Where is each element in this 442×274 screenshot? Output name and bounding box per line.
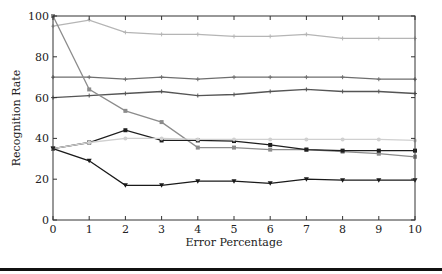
plot-frame	[53, 16, 415, 220]
data-point-marker	[160, 89, 164, 93]
series-layer	[51, 14, 418, 188]
y-tick-label: 20	[35, 173, 49, 186]
data-point-marker	[304, 32, 308, 36]
data-point-marker	[377, 89, 381, 93]
data-point-marker	[87, 75, 91, 79]
data-point-marker	[87, 87, 91, 91]
x-tick-label: 4	[194, 223, 201, 236]
data-point-marker	[160, 32, 164, 36]
x-tick-label: 3	[158, 223, 165, 236]
data-point-marker	[123, 128, 127, 132]
data-point-marker	[304, 75, 308, 79]
data-point-marker	[232, 34, 236, 38]
data-point-marker	[196, 146, 200, 150]
axis-ticks: 012345678910020406080100	[28, 10, 422, 236]
data-point-marker	[232, 146, 236, 150]
data-point-marker	[196, 32, 200, 36]
x-tick-label: 10	[408, 223, 422, 236]
series-1-line	[51, 18, 417, 40]
data-point-marker	[123, 30, 127, 34]
y-axis-label: Recognition Rate	[10, 70, 23, 166]
y-tick-label: 0	[42, 214, 49, 227]
data-point-marker	[268, 137, 272, 141]
y-tick-label: 40	[35, 132, 49, 145]
data-point-marker	[304, 87, 308, 91]
data-point-marker	[160, 136, 164, 140]
data-point-marker	[341, 36, 345, 40]
x-tick-label: 8	[339, 223, 346, 236]
data-point-marker	[268, 34, 272, 38]
data-point-marker	[123, 92, 127, 96]
series-3-line	[51, 87, 417, 99]
line-chart: 012345678910020406080100 Error Percentag…	[0, 0, 442, 274]
data-point-marker	[377, 137, 381, 141]
data-point-marker	[341, 149, 345, 153]
x-axis-label: Error Percentage	[186, 236, 283, 249]
data-point-marker	[268, 143, 272, 147]
data-point-marker	[87, 94, 91, 98]
data-point-marker	[377, 36, 381, 40]
page-divider	[0, 268, 442, 271]
data-point-marker	[232, 75, 236, 79]
data-point-marker	[87, 140, 91, 144]
data-point-marker	[123, 77, 127, 81]
data-point-marker	[341, 89, 345, 93]
data-point-marker	[160, 120, 164, 124]
x-tick-label: 7	[303, 223, 310, 236]
data-point-marker	[268, 89, 272, 93]
data-point-marker	[160, 75, 164, 79]
series-2-line	[51, 75, 417, 81]
data-point-marker	[341, 137, 345, 141]
data-point-marker	[377, 77, 381, 81]
x-tick-label: 2	[122, 223, 129, 236]
data-point-marker	[196, 137, 200, 141]
x-tick-label: 5	[231, 223, 238, 236]
data-point-marker	[268, 148, 272, 152]
data-point-marker	[304, 137, 308, 141]
y-tick-label: 80	[35, 51, 49, 64]
data-point-marker	[196, 94, 200, 98]
data-point-marker	[196, 77, 200, 81]
x-tick-label: 6	[267, 223, 274, 236]
y-tick-label: 60	[35, 92, 49, 105]
data-point-marker	[268, 75, 272, 79]
y-tick-label: 100	[28, 10, 49, 23]
data-point-marker	[123, 109, 127, 113]
data-point-marker	[123, 136, 127, 140]
x-tick-label: 0	[50, 223, 57, 236]
data-point-marker	[304, 148, 308, 152]
x-tick-label: 1	[86, 223, 93, 236]
data-point-marker	[377, 149, 381, 153]
data-point-marker	[232, 137, 236, 141]
data-point-marker	[341, 75, 345, 79]
x-tick-label: 9	[375, 223, 382, 236]
data-point-marker	[232, 93, 236, 97]
